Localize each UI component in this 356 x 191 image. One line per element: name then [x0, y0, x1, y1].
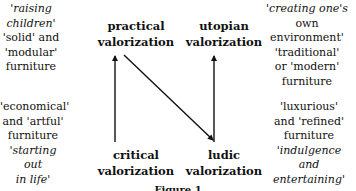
arrow-practical-to-ludic [124, 55, 213, 140]
diagram-arrows [0, 0, 356, 191]
figure-caption: Figure 1 [0, 184, 356, 191]
